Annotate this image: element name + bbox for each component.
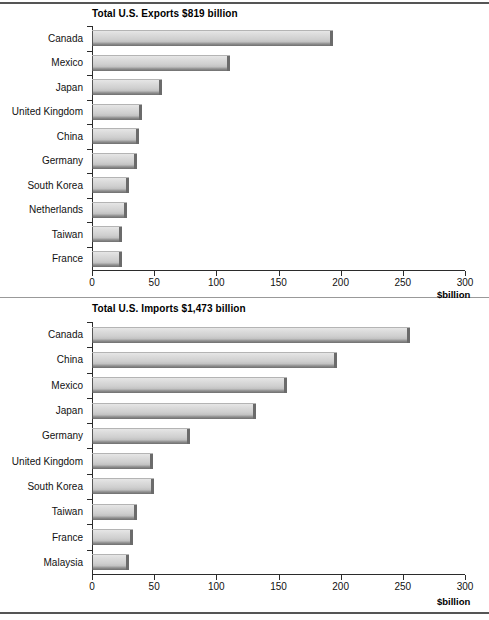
x-axis-tick [465, 271, 466, 276]
exports-x-axis-unit-label: $billion [437, 289, 470, 300]
bar [92, 478, 154, 494]
x-axis-tick [403, 271, 404, 276]
y-axis-tick [87, 75, 92, 76]
bar [92, 202, 127, 218]
x-axis-tick [216, 575, 217, 580]
x-axis-tick-label: 200 [332, 277, 349, 288]
y-axis-tick [87, 347, 92, 348]
bar [92, 554, 129, 570]
x-axis-tick-label: 150 [270, 581, 287, 592]
bar-row: China [92, 347, 465, 372]
x-axis-tick-label: 50 [149, 581, 160, 592]
category-label: South Korea [27, 481, 83, 492]
x-axis-tick [341, 575, 342, 580]
bar-row: Japan [92, 398, 465, 423]
y-axis-tick [87, 124, 92, 125]
category-label: Taiwan [52, 506, 83, 517]
x-axis-tick [465, 575, 466, 580]
y-axis-tick [87, 499, 92, 500]
y-axis-tick [87, 100, 92, 101]
x-axis-tick-label: 200 [332, 581, 349, 592]
y-axis-tick [87, 322, 92, 323]
category-label: Germany [42, 430, 83, 441]
exports-bar-rows: CanadaMexicoJapanUnited KingdomChinaGerm… [92, 26, 465, 271]
x-axis-tick [154, 271, 155, 276]
chart-page: Total U.S. Exports $819 billion CanadaMe… [0, 0, 489, 620]
y-axis-tick [87, 26, 92, 27]
x-axis-tick [216, 271, 217, 276]
x-axis-tick [403, 575, 404, 580]
category-label: United Kingdom [12, 456, 83, 467]
bar [92, 428, 190, 444]
top-rule [0, 2, 489, 4]
imports-bar-chart: Total U.S. Imports $1,473 billion Canada… [0, 300, 489, 612]
bar [92, 327, 410, 343]
bar-row: Malaysia [92, 550, 465, 575]
bar [92, 251, 122, 267]
x-axis-tick-label: 250 [394, 277, 411, 288]
category-label: United Kingdom [12, 106, 83, 117]
bar-row: Mexico [92, 51, 465, 76]
bar-row: South Korea [92, 173, 465, 198]
bar [92, 128, 139, 144]
bar [92, 30, 333, 46]
y-axis-tick [87, 173, 92, 174]
imports-x-axis-unit-label: $billion [437, 596, 470, 607]
exports-x-tick-group: 050100150200250300 [92, 271, 465, 291]
y-axis-tick [87, 198, 92, 199]
bar-row: Canada [92, 322, 465, 347]
y-axis-tick [87, 51, 92, 52]
y-axis-tick [87, 524, 92, 525]
x-axis-tick [92, 271, 93, 276]
x-axis-tick-label: 300 [457, 581, 474, 592]
category-label: China [57, 354, 83, 365]
category-label: Netherlands [29, 204, 83, 215]
bar [92, 104, 142, 120]
category-label: Mexico [51, 57, 83, 68]
y-axis-tick [87, 550, 92, 551]
y-axis-tick [87, 222, 92, 223]
bar [92, 55, 230, 71]
bar-row: Netherlands [92, 198, 465, 223]
category-label: Canada [48, 33, 83, 44]
bar-row: Taiwan [92, 499, 465, 524]
category-label: Japan [56, 405, 83, 416]
x-axis-tick [154, 575, 155, 580]
bar-row: Taiwan [92, 222, 465, 247]
bar-row: Germany [92, 423, 465, 448]
y-axis-tick [87, 474, 92, 475]
bar [92, 403, 256, 419]
bar [92, 153, 137, 169]
y-axis-tick [87, 247, 92, 248]
category-label: Mexico [51, 380, 83, 391]
bar [92, 226, 122, 242]
imports-plot-area: CanadaChinaMexicoJapanGermanyUnited King… [92, 322, 465, 575]
bar-row: United Kingdom [92, 100, 465, 125]
bar-row: Canada [92, 26, 465, 51]
y-axis-tick [87, 398, 92, 399]
category-label: Canada [48, 329, 83, 340]
imports-x-tick-group: 050100150200250300 [92, 575, 465, 595]
y-axis-tick [87, 423, 92, 424]
x-axis-tick-label: 250 [394, 581, 411, 592]
bottom-rule [0, 612, 489, 614]
bar [92, 504, 137, 520]
imports-chart-title: Total U.S. Imports $1,473 billion [92, 303, 246, 314]
x-axis-tick-label: 300 [457, 277, 474, 288]
category-label: South Korea [27, 180, 83, 191]
y-axis-tick [87, 373, 92, 374]
bar [92, 352, 337, 368]
bar [92, 453, 153, 469]
category-label: Germany [42, 155, 83, 166]
category-label: Japan [56, 82, 83, 93]
x-axis-tick-label: 0 [89, 277, 95, 288]
imports-bar-rows: CanadaChinaMexicoJapanGermanyUnited King… [92, 322, 465, 575]
bar-row: China [92, 124, 465, 149]
x-axis-tick [279, 575, 280, 580]
bar-row: Mexico [92, 373, 465, 398]
bar [92, 529, 133, 545]
exports-bar-chart: Total U.S. Exports $819 billion CanadaMe… [0, 6, 489, 296]
x-axis-tick-label: 100 [208, 277, 225, 288]
category-label: China [57, 131, 83, 142]
x-axis-tick-label: 150 [270, 277, 287, 288]
